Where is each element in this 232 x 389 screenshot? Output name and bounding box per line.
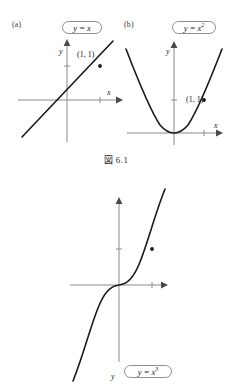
y-axis-label-c: y	[111, 372, 115, 381]
y-axis-arrowhead-c	[116, 197, 123, 204]
y-axis-label-b: y	[166, 47, 170, 56]
equation-text-c: y = x	[138, 367, 156, 377]
x-axis-arrowhead-b	[216, 130, 223, 137]
figure-6-1: (a) (b) x y (1, 1) y = x x	[0, 0, 232, 172]
plot-y-equals-x-cubed	[0, 176, 232, 389]
figure-caption-6-1: 図 6.1	[0, 153, 232, 166]
equation-exponent-c: 3	[155, 366, 158, 372]
y-axis-arrowhead-b	[171, 41, 178, 48]
x-axis-label-b: x	[214, 121, 218, 130]
equation-text-b: y = x	[184, 23, 202, 33]
point-marker-1-1-c	[150, 247, 154, 251]
x-axis-arrowhead-c	[161, 282, 168, 289]
equation-pill-y-equals-x-cubed: y = x3	[124, 365, 172, 378]
figure-6-2: x y (1, 1) y = x3 図 6.2	[0, 176, 232, 389]
point-label-1-1-b: (1, 1)	[186, 95, 203, 104]
equation-exponent-b: 2	[201, 22, 204, 28]
equation-pill-y-equals-x-squared: y = x2	[172, 21, 216, 34]
